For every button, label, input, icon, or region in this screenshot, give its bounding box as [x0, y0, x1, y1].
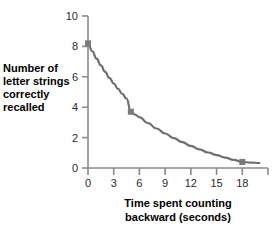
- y-tick-label-6: 6: [72, 71, 78, 83]
- y-tick-label-4: 4: [72, 101, 78, 113]
- x-tick-label-9: 9: [162, 177, 168, 189]
- x-tick-label-6: 6: [136, 177, 142, 189]
- y-tick-label-8: 8: [72, 40, 78, 52]
- x-tick-label-0: 0: [85, 177, 91, 189]
- data-point-1: [128, 109, 134, 115]
- x-tick-label-18: 18: [236, 177, 248, 189]
- chart-screenshot: 0246810 0369121518 Number ofletter strin…: [0, 0, 276, 231]
- data-point-0: [85, 40, 91, 46]
- y-tick-label-2: 2: [72, 132, 78, 144]
- y-tick-label-0: 0: [72, 162, 78, 174]
- x-tick-label-15: 15: [210, 177, 222, 189]
- decay-line-chart: 0246810 0369121518 Number ofletter strin…: [0, 0, 276, 231]
- y-tick-label-10: 10: [66, 10, 78, 22]
- data-point-2: [239, 159, 245, 165]
- x-tick-label-12: 12: [185, 177, 197, 189]
- x-tick-label-3: 3: [111, 177, 117, 189]
